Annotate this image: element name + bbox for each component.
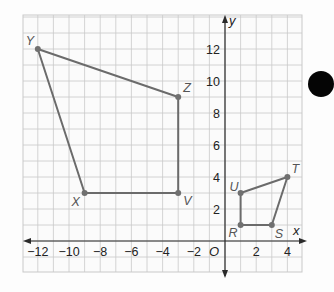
x-tick-label: −12	[27, 245, 48, 259]
vertex-point-r	[238, 222, 244, 228]
y-tick-label: 8	[213, 107, 220, 121]
vertex-point-y	[35, 46, 41, 52]
y-tick-label: 2	[213, 203, 220, 217]
vertex-label-r: R	[229, 226, 238, 240]
y-tick-label: 12	[206, 43, 220, 57]
origin-label: O	[209, 244, 219, 259]
x-axis-arrow-right	[299, 238, 307, 244]
y-tick-label: 10	[206, 75, 220, 89]
y-tick-label: 6	[213, 139, 220, 153]
vertex-label-s: S	[275, 227, 284, 241]
vertex-label-u: U	[230, 180, 240, 194]
y-tick-label: 4	[213, 171, 220, 185]
x-tick-label: −2	[187, 245, 201, 259]
x-tick-label: 4	[284, 245, 291, 259]
black-dot-marker	[308, 71, 334, 97]
vertex-point-x	[82, 190, 88, 196]
vertex-label-z: Z	[182, 81, 191, 95]
vertex-point-v	[175, 190, 181, 196]
x-tick-label: 2	[253, 245, 260, 259]
y-axis-arrow-down	[222, 270, 228, 278]
x-tick-label: −10	[58, 245, 79, 259]
x-tick-label: −8	[93, 245, 107, 259]
x-tick-label: −4	[155, 245, 169, 259]
vertex-point-t	[284, 174, 290, 180]
x-axis-label: x	[292, 223, 300, 238]
vertex-point-z	[175, 94, 181, 100]
x-tick-label: −6	[124, 245, 138, 259]
vertex-label-x: X	[71, 195, 81, 209]
